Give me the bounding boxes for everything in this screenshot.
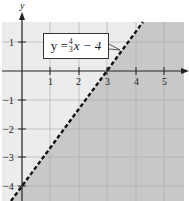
inequality-graph: 1 2 3 4 5 1 −1 −2 −3 −4 y bbox=[0, 0, 189, 201]
x-axis-arrow-icon bbox=[181, 68, 189, 74]
y-tick-label: −3 bbox=[3, 152, 14, 163]
y-tick-label: −4 bbox=[3, 181, 14, 192]
equation-suffix: x − 4 bbox=[74, 38, 102, 54]
y-axis-arrow-icon bbox=[19, 12, 25, 20]
y-tick-label: −2 bbox=[3, 124, 14, 135]
fraction-denominator: 3 bbox=[69, 46, 73, 54]
x-tick-label: 1 bbox=[48, 76, 53, 87]
equation-label: y = 4 3 x − 4 bbox=[43, 33, 109, 59]
x-tick-label: 2 bbox=[76, 76, 81, 87]
x-tick-label: 3 bbox=[105, 76, 110, 87]
x-tick-label: 4 bbox=[134, 76, 139, 87]
y-tick-label: −1 bbox=[3, 95, 14, 106]
y-tick-label: 1 bbox=[9, 37, 14, 48]
equation-prefix: y = bbox=[51, 38, 68, 54]
y-axis-label: y bbox=[19, 0, 25, 11]
x-tick-label: 5 bbox=[162, 76, 167, 87]
equation-fraction: 4 3 bbox=[69, 38, 73, 54]
